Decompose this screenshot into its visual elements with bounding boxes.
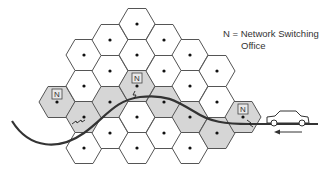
direction-arrow-icon — [274, 130, 302, 135]
office-label: N — [134, 74, 140, 83]
base-station-dot-icon — [82, 53, 85, 56]
base-station-dot-icon — [215, 100, 218, 103]
base-station-dot-icon — [188, 115, 191, 118]
cellular-network-diagram: NNN — [0, 0, 328, 175]
base-station-dot-icon — [162, 69, 165, 72]
base-station-dot-icon — [162, 100, 165, 103]
base-station-dot-icon — [108, 69, 111, 72]
base-station-dot-icon — [188, 53, 191, 56]
base-station-dot-icon — [162, 38, 165, 41]
base-station-dot-icon — [135, 53, 138, 56]
base-station-dot-icon — [135, 22, 138, 25]
legend: N = Network Switching Office — [223, 28, 319, 52]
base-station-dot-icon — [108, 100, 111, 103]
legend-line-2: Office — [223, 40, 319, 52]
base-station-dot-icon — [82, 115, 85, 118]
base-station-dot-icon — [108, 38, 111, 41]
legend-line-1: N = Network Switching — [223, 28, 319, 40]
base-station-dot-icon — [188, 84, 191, 87]
base-station-dot-icon — [82, 84, 85, 87]
base-station-dot-icon — [135, 146, 138, 149]
base-station-dot-icon — [82, 146, 85, 149]
base-station-dot-icon — [135, 115, 138, 118]
base-station-dot-icon — [108, 131, 111, 134]
office-label: N — [54, 90, 60, 99]
base-station-dot-icon — [215, 131, 218, 134]
base-station-dot-icon — [55, 100, 58, 103]
base-station-dot-icon — [162, 131, 165, 134]
base-station-dot-icon — [135, 84, 138, 87]
base-station-dot-icon — [215, 69, 218, 72]
office-label: N — [240, 105, 246, 114]
base-station-dot-icon — [241, 115, 244, 118]
base-station-dot-icon — [188, 146, 191, 149]
